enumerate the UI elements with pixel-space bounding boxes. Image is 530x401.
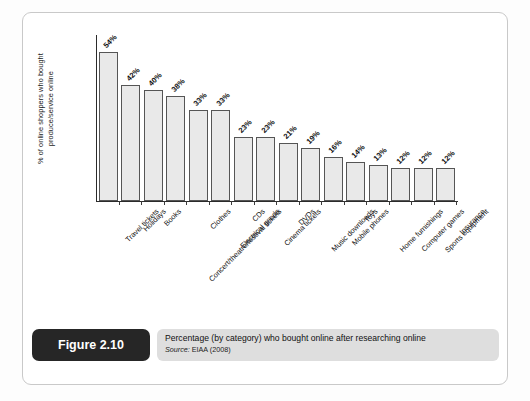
x-axis-tick — [254, 201, 255, 205]
bar-value-label: 38% — [169, 77, 186, 94]
bar[interactable] — [346, 162, 365, 201]
bar[interactable] — [234, 137, 253, 201]
bar-value-label: 23% — [237, 118, 254, 135]
y-axis-title-line2: produce/service online — [46, 24, 56, 194]
x-axis-tick — [209, 201, 210, 205]
caption-source-value: EIAA (2008) — [190, 345, 231, 354]
bar[interactable] — [121, 85, 140, 201]
bar[interactable] — [211, 110, 230, 201]
x-axis-tick — [231, 201, 232, 205]
x-axis-tick — [434, 201, 435, 205]
bar-value-label: 21% — [282, 124, 299, 141]
x-axis-tick — [141, 201, 142, 205]
bar-value-label: 23% — [259, 118, 276, 135]
bar[interactable] — [144, 90, 163, 201]
bar-value-label: 33% — [214, 91, 231, 108]
page-background: % of online shoppers who bought produce/… — [0, 0, 530, 401]
y-axis-title: % of online shoppers who bought produce/… — [36, 24, 55, 194]
y-axis-title-line1: % of online shoppers who bought — [36, 24, 46, 194]
x-axis-tick — [164, 201, 165, 205]
bar-value-label: 33% — [192, 91, 209, 108]
x-axis-tick — [321, 201, 322, 205]
bar[interactable] — [301, 148, 320, 201]
bar[interactable] — [436, 168, 455, 201]
x-axis-tick — [276, 201, 277, 205]
bar[interactable] — [99, 52, 118, 201]
x-axis-tick — [344, 201, 345, 205]
bar[interactable] — [189, 110, 208, 201]
x-axis-tick — [389, 201, 390, 205]
bar-value-label: 14% — [349, 143, 366, 160]
bar-value-label: 12% — [394, 149, 411, 166]
caption-source-label: Source: — [165, 345, 190, 354]
bar[interactable] — [324, 157, 343, 201]
x-axis-tick — [186, 201, 187, 205]
x-axis-line — [96, 201, 458, 202]
x-axis-category-labels: Travel ticketsHolidaysBooksConcert/theat… — [97, 207, 497, 317]
bar[interactable] — [166, 96, 185, 201]
bar[interactable] — [369, 165, 388, 201]
caption-body: Percentage (by category) who bought onli… — [157, 329, 499, 361]
plot-area: 54%42%40%38%33%33%23%23%21%19%16%14%13%1… — [97, 35, 457, 201]
x-axis-tick — [366, 201, 367, 205]
bar[interactable] — [391, 168, 410, 201]
bar-value-label: 13% — [372, 146, 389, 163]
x-axis-tick — [119, 201, 120, 205]
bar-value-label: 19% — [304, 129, 321, 146]
bar-value-label: 12% — [417, 149, 434, 166]
bar[interactable] — [414, 168, 433, 201]
bar-chart: % of online shoppers who bought produce/… — [23, 13, 509, 318]
bar-value-label: 12% — [439, 149, 456, 166]
caption-source: Source: EIAA (2008) — [165, 345, 491, 355]
bar-value-label: 42% — [124, 66, 141, 83]
x-axis-tick — [456, 201, 457, 205]
bar[interactable] — [279, 143, 298, 201]
x-axis-tick — [299, 201, 300, 205]
x-axis-category-label: Clothes — [208, 207, 232, 231]
figure-card: % of online shoppers who bought produce/… — [22, 12, 508, 385]
bar-value-label: 40% — [147, 71, 164, 88]
figure-number-badge: Figure 2.10 — [32, 329, 150, 361]
bar[interactable] — [256, 137, 275, 201]
x-axis-tick — [411, 201, 412, 205]
figure-caption: Figure 2.10 Percentage (by category) who… — [23, 325, 509, 373]
bar-value-label: 54% — [102, 32, 119, 49]
caption-title: Percentage (by category) who bought onli… — [165, 333, 491, 344]
bar-value-label: 16% — [327, 138, 344, 155]
